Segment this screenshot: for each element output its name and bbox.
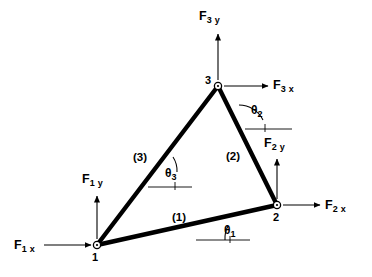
truss-diagram: 1 2 3 (1) (2) (3) F1 x F1 y F2 x F2 y F3… [0,0,372,277]
member-label-1: (1) [172,212,186,224]
force-F3x-sub: 3 x [281,84,294,94]
angle-label-theta3: θ3 [165,167,177,182]
node-label-1: 1 [92,252,98,263]
force-label-F3x: F3 x [273,79,294,94]
force-F1x-sub: 1 x [22,244,35,254]
force-F3y-base: F [199,9,207,23]
force-label-F2y: F2 y [264,137,285,152]
member-label-3: (3) [133,152,147,164]
truss-drawing-canvas [0,0,372,277]
node-label-3: 3 [205,75,211,86]
force-F2x-sub: 2 x [333,204,346,214]
angle-label-theta1: θ1 [224,224,236,239]
node-1-center-dot [96,244,98,246]
node-label-2: 2 [273,212,279,223]
force-F2y-sub: 2 y [272,142,285,152]
force-label-F1y: F1 y [82,173,103,188]
angle-theta1-sub: 1 [231,229,236,239]
force-label-F2x: F2 x [325,199,346,214]
truss-members [97,86,277,245]
node-2-center-dot [276,204,278,206]
angle-theta3-sub: 3 [172,172,177,182]
force-label-F3y: F3 y [199,10,220,25]
force-F1y-base: F [82,172,90,186]
node-3-center-dot [217,85,219,87]
force-F2x-base: F [325,198,333,212]
force-F1x-base: F [14,238,22,252]
force-F3y-sub: 3 y [207,15,220,25]
angle-theta2-sub: 2 [258,109,263,119]
member-label-2: (2) [226,151,240,163]
force-F1y-sub: 1 y [90,178,103,188]
force-F2y-base: F [264,136,272,150]
force-label-F1x: F1 x [14,239,35,254]
force-F3x-base: F [273,78,281,92]
angle-label-theta2: θ2 [251,104,263,119]
